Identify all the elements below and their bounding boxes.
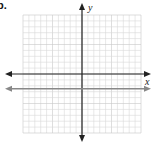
coordinate-plane: y x [0, 0, 154, 144]
y-axis-arrow-down-icon [79, 135, 85, 142]
x-axis-arrow-left-icon [5, 71, 12, 77]
line-arrow-left-icon [5, 86, 12, 92]
x-axis-label: x [144, 76, 150, 87]
y-axis-label: y [87, 2, 93, 13]
y-axis-arrow-up-icon [79, 3, 85, 10]
